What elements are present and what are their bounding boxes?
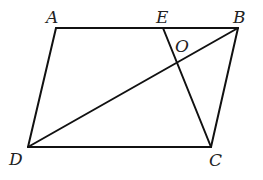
segment-bc [211,28,238,147]
geometry-figure: A E B O D C [0,0,263,180]
label-b: B [232,7,246,27]
segment-da [28,28,56,147]
label-c: C [209,150,222,170]
segments [28,28,238,147]
diagonal-bd [28,28,238,147]
label-a: A [44,7,58,27]
label-d: D [8,149,23,169]
label-o: O [175,36,189,56]
label-e: E [155,7,169,27]
